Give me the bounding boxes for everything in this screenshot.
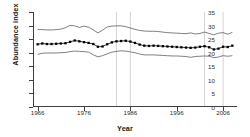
chart-figure: Abundance index Year 0510152025303519661… bbox=[0, 0, 250, 137]
x-axis-title: Year bbox=[0, 124, 250, 133]
axis-frame bbox=[33, 12, 237, 107]
y-tick-mark bbox=[29, 107, 33, 108]
x-tick-mark bbox=[38, 107, 39, 111]
y-axis-title: Abundance index bbox=[11, 0, 20, 80]
x-tick-mark bbox=[84, 107, 85, 111]
plot-area bbox=[33, 12, 237, 107]
x-tick-mark bbox=[177, 107, 178, 111]
x-tick-mark bbox=[130, 107, 131, 111]
x-tick-mark bbox=[223, 107, 224, 111]
